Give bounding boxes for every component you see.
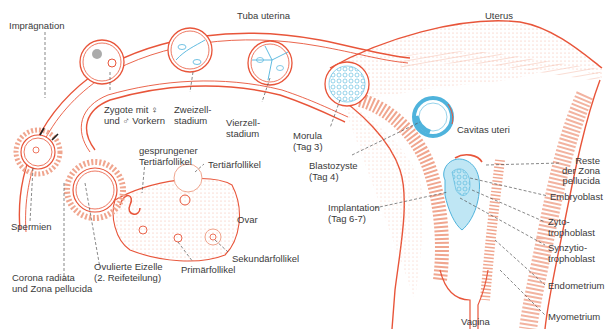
label-blastozyste-2: (Tag 4) bbox=[309, 171, 339, 182]
morula bbox=[325, 62, 369, 106]
label-zygote-2: und ♂ Vorkern bbox=[104, 115, 165, 126]
label-implantation-2: (Tag 6-7) bbox=[328, 213, 366, 224]
label-vierzell-2: stadium bbox=[226, 128, 259, 139]
label-ovar: Ovar bbox=[237, 214, 258, 225]
label-embryoblast: Embryoblast bbox=[550, 191, 603, 202]
label-tuba-uterina: Tuba uterina bbox=[237, 10, 290, 21]
label-ovulierte-1: Ovulierte Eizelle bbox=[94, 261, 163, 272]
label-implantation-1: Implantation bbox=[328, 202, 380, 213]
label-corona-2: und Zona pellucida bbox=[12, 283, 92, 294]
label-corona-1: Corona radiata bbox=[12, 272, 75, 283]
label-zweizell-2: stadium bbox=[174, 115, 207, 126]
label-tertiaerfollikel: Tertiärfollikel bbox=[208, 159, 261, 170]
label-zytotrophoblast-1: Zyto- bbox=[548, 216, 570, 227]
label-reste-3: pellucida bbox=[563, 175, 601, 186]
label-gesprungener-1: gesprungener bbox=[139, 145, 198, 156]
label-sekundaerfollikel: Sekundärfollikel bbox=[232, 253, 299, 264]
label-synzytiotrophoblast-2: trophoblast bbox=[548, 253, 595, 264]
label-blastozyste-1: Blastozyste bbox=[309, 160, 358, 171]
blastocyst bbox=[414, 98, 453, 136]
label-impraegnation: Imprägnation bbox=[9, 20, 64, 31]
label-vagina: Vagina bbox=[461, 316, 490, 327]
label-ovulierte-2: (2. Reifeteilung) bbox=[94, 272, 161, 283]
zygote bbox=[80, 40, 124, 84]
label-gesprungener-2: Tertiärfollikel bbox=[139, 156, 192, 167]
label-uterus: Uterus bbox=[485, 10, 513, 21]
label-morula-1: Morula bbox=[293, 130, 322, 141]
impregnation-oocyte bbox=[16, 128, 60, 174]
label-zygote-1: Zygote mit ♀ bbox=[104, 104, 158, 115]
label-zweizell-1: Zweizell- bbox=[174, 104, 211, 115]
fertilization-diagram bbox=[0, 0, 608, 329]
ovulated-oocyte bbox=[67, 162, 123, 218]
label-synzytiotrophoblast-1: Synzytio- bbox=[548, 242, 587, 253]
label-myometrium: Myometrium bbox=[548, 311, 600, 322]
label-endometrium: Endometrium bbox=[548, 280, 605, 291]
implanting-embryo bbox=[444, 155, 482, 230]
two-cell-stage bbox=[168, 28, 212, 72]
label-zytotrophoblast-2: trophoblast bbox=[548, 227, 595, 238]
label-morula-2: (Tag 3) bbox=[293, 141, 323, 152]
label-primaerfollikel: Primärfollikel bbox=[181, 264, 235, 275]
label-cavitas-uteri: Cavitas uteri bbox=[457, 124, 510, 135]
label-vierzell-1: Vierzell- bbox=[226, 117, 260, 128]
ovary bbox=[113, 164, 239, 261]
label-spermien: Spermien bbox=[11, 221, 52, 232]
